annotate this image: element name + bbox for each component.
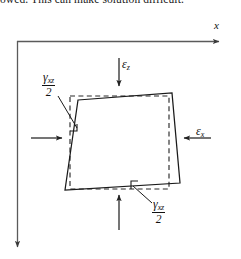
shear-strain-label-upper-left: γxz 2 (42, 71, 55, 99)
strain-element-diagram (0, 0, 241, 259)
epsilon-x-label: εx (196, 122, 204, 139)
epsilon-x-subscript: x (201, 130, 204, 139)
deformed-element-solid (65, 93, 180, 190)
shear-angle-markers (70, 124, 138, 189)
x-axis-label: x (214, 20, 219, 31)
shear-numerator-upper-left: γxz (42, 71, 55, 85)
shear-strain-label-lower-right: γxz 2 (152, 198, 165, 226)
leader-line-upper-left (58, 96, 77, 128)
gamma-subscript-upper-left: xz (48, 76, 54, 85)
figure-screenshot: owed. This can make solution difficult. (0, 0, 241, 259)
shear-numerator-lower-right: γxz (152, 198, 165, 212)
shear-fraction-upper-left: γxz 2 (42, 71, 55, 98)
shear-denominator-upper-left: 2 (42, 87, 55, 99)
reference-square-dashed (70, 96, 169, 189)
gamma-subscript-lower-right: xz (158, 203, 164, 212)
shear-fraction-lower-right: γxz 2 (152, 198, 165, 225)
epsilon-z-label: εz (122, 55, 130, 72)
epsilon-z-subscript: z (127, 63, 130, 72)
shear-denominator-lower-right: 2 (152, 214, 165, 226)
